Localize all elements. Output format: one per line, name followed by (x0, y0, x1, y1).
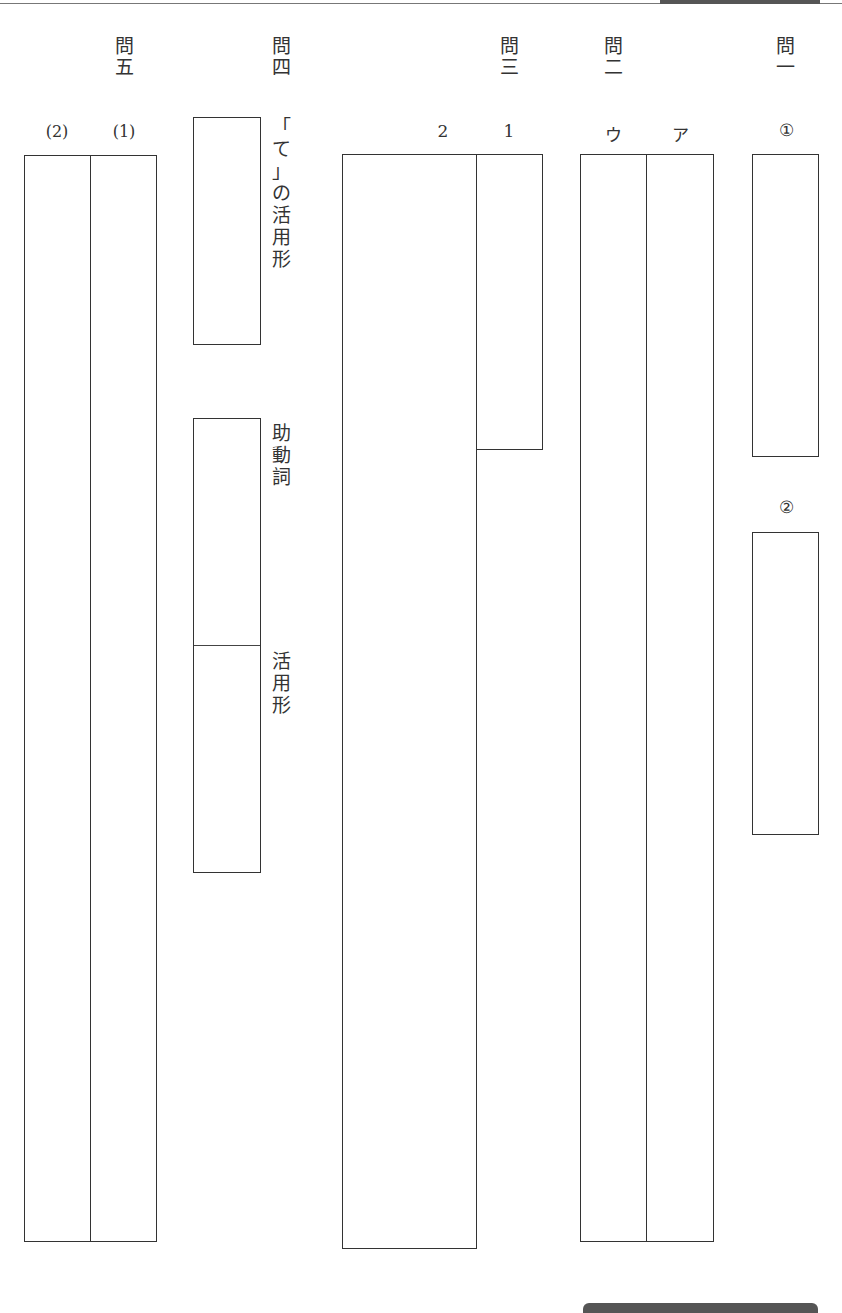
q4-te-conjugation-label: 「 て 」 の 活 用 形 (270, 116, 292, 270)
q3-sub-2-label: 2 (430, 121, 456, 141)
q1-title-top: 問 (774, 36, 796, 57)
q3-title-bottom: 三 (498, 57, 520, 78)
label-char: 「 (270, 116, 292, 138)
q4-conjugation-label: 活 用 形 (270, 650, 292, 716)
q3-answer-box-2[interactable] (342, 154, 477, 1249)
label-char: 活 (270, 650, 292, 672)
q1-title-bottom: 一 (774, 57, 796, 78)
q5-answer-cell-2[interactable] (25, 157, 89, 1240)
label-char: の (270, 182, 292, 204)
q4-auxverb-divider (194, 645, 260, 646)
q4-te-conjugation-box[interactable] (193, 117, 261, 345)
q3-answer-box-1[interactable] (475, 154, 543, 450)
q3-sub-1-label: 1 (496, 121, 522, 141)
q2-sub-a-label: ア (667, 121, 693, 146)
q1-sub-2-label: ② (772, 497, 800, 517)
q4-auxverb-label: 助 動 詞 (270, 422, 292, 488)
q2-answer-cell-u[interactable] (581, 156, 645, 1240)
q1-answer-box-1[interactable] (752, 154, 819, 457)
bottom-tab-marker (583, 1303, 818, 1313)
q5-sub-2-label: (2) (37, 122, 77, 141)
q4-auxverb-cell[interactable] (195, 420, 259, 644)
q1-sub-1-label: ① (772, 120, 800, 140)
q4-auxverb-conjugation-cell[interactable] (195, 647, 259, 871)
q5-title-top: 問 (113, 36, 135, 57)
label-char: 詞 (270, 466, 292, 488)
q2-sub-u-label: ウ (600, 121, 626, 146)
label-char: 形 (270, 248, 292, 270)
label-char: 助 (270, 422, 292, 444)
q1-title: 問 一 (774, 36, 796, 78)
label-char: て (270, 138, 292, 160)
q5-title: 問 五 (113, 36, 135, 78)
q5-sub-1-label: (1) (104, 122, 144, 141)
label-char: 形 (270, 694, 292, 716)
top-tab-marker (660, 0, 820, 4)
q1-answer-box-2[interactable] (752, 532, 819, 835)
q2-answer-cell-a[interactable] (647, 156, 713, 1240)
q3-title: 問 三 (498, 36, 520, 78)
q4-title-top: 問 (270, 36, 292, 57)
label-char: 用 (270, 226, 292, 248)
q2-title: 問 二 (602, 36, 624, 78)
q2-title-bottom: 二 (602, 57, 624, 78)
label-char: 活 (270, 204, 292, 226)
q5-answer-cell-1[interactable] (91, 157, 156, 1240)
q3-title-top: 問 (498, 36, 520, 57)
q2-title-top: 問 (602, 36, 624, 57)
q5-title-bottom: 五 (113, 57, 135, 78)
label-char: 用 (270, 672, 292, 694)
label-char: 」 (270, 160, 292, 182)
q4-title-bottom: 四 (270, 57, 292, 78)
label-char: 動 (270, 444, 292, 466)
q4-title: 問 四 (270, 36, 292, 78)
